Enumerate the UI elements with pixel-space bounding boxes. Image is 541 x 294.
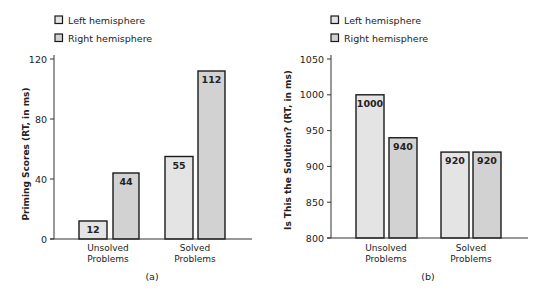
y-tick-label: 950	[306, 125, 324, 136]
y-tick-label: 900	[306, 161, 324, 172]
legend-label: Right hemisphere	[68, 33, 152, 44]
figure: Left hemisphereRight hemisphere124455112…	[0, 0, 541, 294]
y-axis-label: Priming Scores (RT, in ms)	[21, 87, 31, 220]
legend-swatch-left	[331, 16, 339, 24]
bar-value-label: 1000	[357, 98, 384, 109]
legend-swatch-right	[331, 34, 339, 42]
bar	[198, 71, 225, 239]
x-category-label: Problems	[450, 254, 492, 264]
y-tick-label: 1000	[300, 89, 324, 100]
x-category-label: Unsolved	[365, 243, 407, 253]
bar-value-label: 940	[393, 141, 413, 152]
legend-swatch-right	[55, 34, 63, 42]
x-category-label: Unsolved	[87, 243, 129, 253]
x-category-label: Solved	[456, 243, 486, 253]
y-tick-label: 120	[29, 54, 47, 65]
y-tick-label: 1050	[300, 54, 324, 65]
x-category-label: Problems	[174, 254, 216, 264]
chart-a: Left hemisphereRight hemisphere124455112…	[21, 15, 252, 283]
bar-value-label: 44	[119, 176, 133, 187]
x-category-label: Problems	[365, 254, 407, 264]
y-tick-label: 80	[35, 114, 47, 125]
x-category-label: Problems	[87, 254, 129, 264]
legend-label: Right hemisphere	[344, 33, 428, 44]
legend-swatch-left	[55, 16, 63, 24]
x-category-label: Solved	[180, 243, 210, 253]
bar-value-label: 112	[202, 74, 222, 85]
y-axis-label: Is This the Solution? (RT, in ms)	[283, 70, 293, 230]
chart-b: Left hemisphereRight hemisphere100094092…	[283, 15, 528, 283]
bar-value-label: 920	[477, 155, 497, 166]
panel-caption: (a)	[145, 271, 158, 282]
panel-caption: (b)	[421, 271, 434, 282]
legend-label: Left hemisphere	[344, 15, 421, 26]
y-tick-label: 0	[41, 234, 47, 245]
bar-value-label: 12	[86, 224, 99, 235]
y-tick-label: 800	[306, 233, 324, 244]
legend-label: Left hemisphere	[68, 15, 145, 26]
y-tick-label: 850	[306, 197, 324, 208]
bar-value-label: 55	[172, 160, 185, 171]
bar	[356, 95, 384, 238]
bar-value-label: 920	[445, 155, 465, 166]
y-tick-label: 40	[35, 174, 47, 185]
bar	[389, 138, 417, 238]
